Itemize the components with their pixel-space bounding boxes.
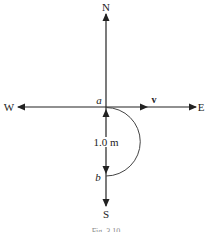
north-label: N [102,1,110,13]
point-b-label: b [95,171,101,183]
point-a-label: a [96,94,102,106]
down-arrowhead-icon [103,166,110,174]
south-label: S [103,208,109,220]
compass-diagram: N S W E a b v 1.0 m Fig. 3.10 [0,0,205,232]
velocity-arrow-icon [140,104,148,111]
west-label: W [4,101,15,113]
velocity-label: v [152,94,157,105]
figure-caption: Fig. 3.10 [92,227,121,232]
east-label: E [198,101,205,113]
distance-label: 1.0 m [93,136,119,148]
up-arrowhead-icon [103,109,110,117]
